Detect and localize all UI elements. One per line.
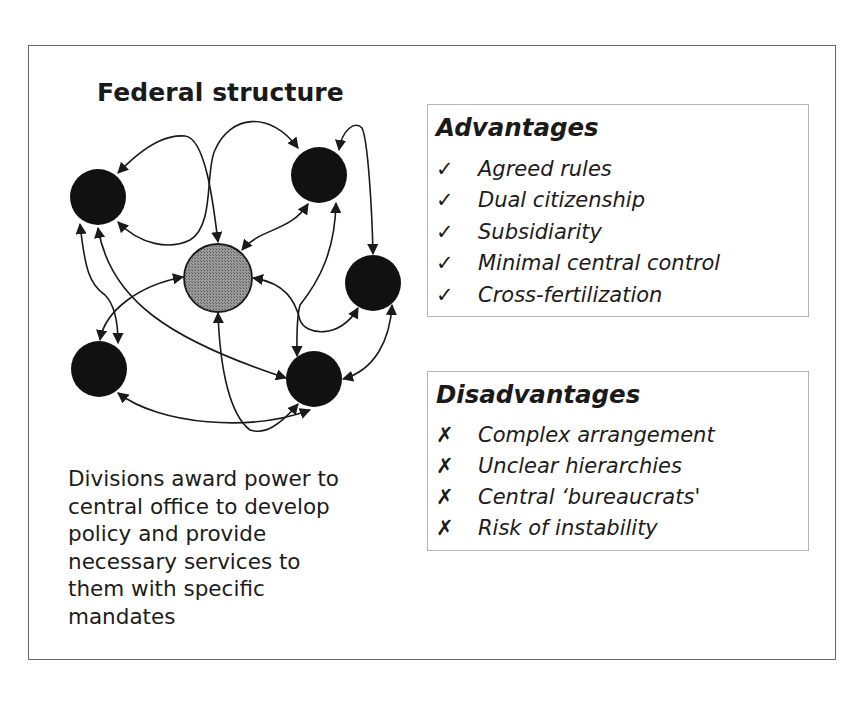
diagram-description: Divisions award power to central office … xyxy=(68,465,398,630)
description-line: mandates xyxy=(68,603,398,631)
cross-icon: ✗ xyxy=(436,454,478,478)
advantage-text: Dual citizenship xyxy=(478,188,645,212)
central-office-node xyxy=(184,244,252,312)
list-item: ✓Minimal central control xyxy=(436,248,720,280)
list-item: ✓Cross-fertilization xyxy=(436,279,720,311)
disadvantages-title: Disadvantages xyxy=(436,380,640,409)
advantages-list: ✓Agreed rules ✓Dual citizenship ✓Subsidi… xyxy=(436,153,720,311)
arrow-bottomleft-bottomright xyxy=(118,393,310,423)
description-line: Divisions award power to xyxy=(68,465,398,493)
checkmark-icon: ✓ xyxy=(436,220,478,244)
description-line: necessary services to xyxy=(68,548,398,576)
arrow-topright-right xyxy=(339,125,373,254)
list-item: ✗Complex arrangement xyxy=(436,419,715,450)
advantage-text: Agreed rules xyxy=(478,157,612,181)
advantage-text: Minimal central control xyxy=(478,251,720,275)
description-line: them with specific xyxy=(68,575,398,603)
cross-icon: ✗ xyxy=(436,423,478,447)
checkmark-icon: ✓ xyxy=(436,283,478,307)
division-node-bottom-left xyxy=(71,341,127,397)
division-node-right xyxy=(345,255,401,311)
arrow-center-topright xyxy=(242,204,308,250)
arrow-topleft-topright xyxy=(118,122,298,245)
division-node-top-right xyxy=(291,147,347,203)
arrow-topright-bottomright xyxy=(297,203,336,356)
advantage-text: Subsidiarity xyxy=(478,220,602,244)
list-item: ✗Central ‘bureaucrats' xyxy=(436,481,715,512)
checkmark-icon: ✓ xyxy=(436,157,478,181)
list-item: ✓Dual citizenship xyxy=(436,185,720,217)
list-item: ✓Agreed rules xyxy=(436,153,720,185)
arrow-topleft-bottomleft xyxy=(80,224,118,343)
description-line: central office to develop xyxy=(68,493,398,521)
arrow-topleft-center xyxy=(118,136,218,242)
list-item: ✗Unclear hierarchies xyxy=(436,450,715,481)
arrow-right-bottomright xyxy=(343,305,392,379)
arrow-center-bottomright xyxy=(218,313,298,431)
list-item: ✗Risk of instability xyxy=(436,512,715,543)
checkmark-icon: ✓ xyxy=(436,251,478,275)
division-node-top-left xyxy=(70,169,126,225)
advantage-text: Cross-fertilization xyxy=(478,283,662,307)
disadvantages-box: Disadvantages ✗Complex arrangement ✗Uncl… xyxy=(427,371,809,551)
list-item: ✓Subsidiarity xyxy=(436,216,720,248)
disadvantage-text: Risk of instability xyxy=(478,516,658,540)
disadvantage-text: Unclear hierarchies xyxy=(478,454,682,478)
checkmark-icon: ✓ xyxy=(436,188,478,212)
advantages-title: Advantages xyxy=(436,113,599,142)
division-node-bottom-right xyxy=(286,351,342,407)
disadvantages-list: ✗Complex arrangement ✗Unclear hierarchie… xyxy=(436,419,715,543)
disadvantage-text: Central ‘bureaucrats' xyxy=(478,485,700,509)
description-line: policy and provide xyxy=(68,520,398,548)
cross-icon: ✗ xyxy=(436,485,478,509)
arrow-center-right xyxy=(253,278,358,332)
advantages-box: Advantages ✓Agreed rules ✓Dual citizensh… xyxy=(427,104,809,317)
arrow-topleft-bottomright xyxy=(98,228,286,378)
disadvantage-text: Complex arrangement xyxy=(478,423,715,447)
cross-icon: ✗ xyxy=(436,516,478,540)
